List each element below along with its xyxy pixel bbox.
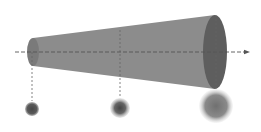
axis-arrowhead-icon (244, 50, 250, 54)
diagram-canvas (0, 0, 261, 132)
spot-large (199, 89, 233, 123)
beam-cone-diagram (0, 0, 261, 132)
spot-small (25, 102, 39, 116)
spot-medium (110, 98, 130, 118)
